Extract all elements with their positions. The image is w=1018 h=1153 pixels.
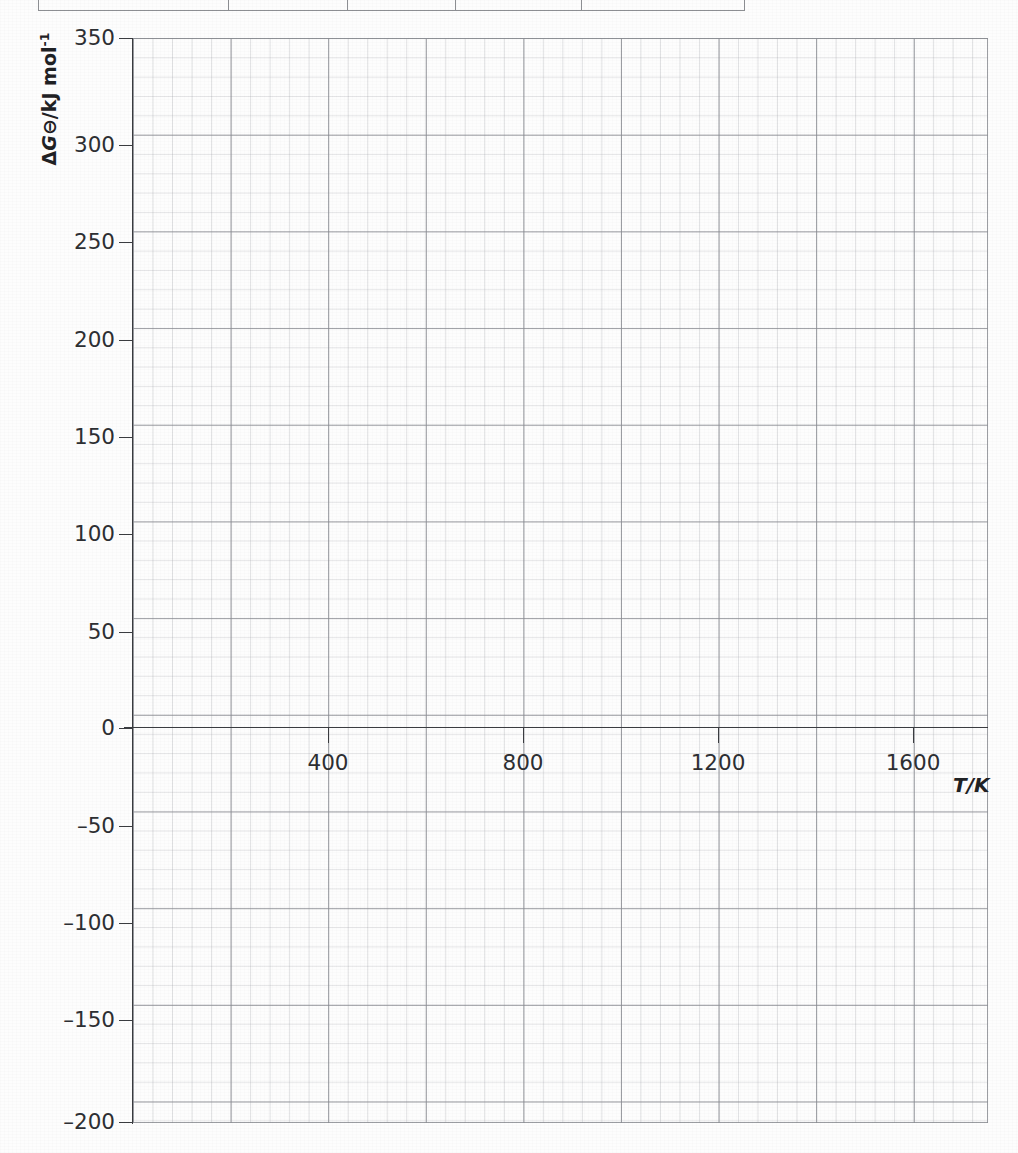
y-tick <box>119 1020 133 1021</box>
y-axis-line <box>132 38 133 1124</box>
y-tick <box>119 242 133 243</box>
plot-border-right <box>987 38 988 1123</box>
y-tick-label: 0 <box>45 717 115 739</box>
y-tick-label: 250 <box>45 231 115 253</box>
y-tick <box>119 728 133 729</box>
y-axis-title-exponent: -1 <box>37 33 52 47</box>
x-tick <box>523 728 524 743</box>
x-tick-label: 1200 <box>673 752 763 774</box>
major-gridlines <box>133 38 988 1123</box>
y-tick <box>119 340 133 341</box>
y-tick-label: 100 <box>45 523 115 545</box>
y-axis-title: ΔG⊖/kJ mol-1 <box>38 24 60 174</box>
plot-grid-area <box>133 38 988 1123</box>
x-axis-zero-line <box>124 727 988 728</box>
y-tick-label: 50 <box>45 621 115 643</box>
table-divider <box>347 0 348 10</box>
y-tick-label: –150 <box>45 1009 115 1031</box>
x-tick-label: 400 <box>283 752 373 774</box>
y-tick <box>119 632 133 633</box>
y-tick-label: 200 <box>45 329 115 351</box>
y-tick <box>119 38 133 39</box>
y-tick <box>119 826 133 827</box>
x-tick <box>328 728 329 743</box>
y-tick-label: –50 <box>45 815 115 837</box>
x-tick <box>718 728 719 743</box>
y-tick <box>119 534 133 535</box>
cropped-data-table <box>38 0 745 11</box>
x-tick-label: 1600 <box>868 752 958 774</box>
x-axis-title: T/K <box>953 773 989 797</box>
y-tick-label: –200 <box>45 1111 115 1133</box>
x-tick-label: 800 <box>478 752 568 774</box>
table-divider <box>38 0 39 10</box>
y-tick <box>119 1122 133 1123</box>
table-divider <box>455 0 456 10</box>
y-tick <box>119 145 133 146</box>
y-axis-title-delta: Δ <box>38 151 60 166</box>
y-tick-label: 150 <box>45 426 115 448</box>
plot-border-bottom <box>133 1122 988 1123</box>
table-divider <box>744 0 745 10</box>
table-divider <box>581 0 582 10</box>
y-axis-title-units: /kJ mol <box>38 47 60 120</box>
y-tick <box>119 923 133 924</box>
y-axis-title-standard-state: ⊖ <box>38 119 60 135</box>
y-tick <box>119 437 133 438</box>
x-tick <box>913 728 914 743</box>
y-tick-label: –100 <box>45 912 115 934</box>
plot-border-top <box>133 38 988 39</box>
y-axis-title-symbol: G <box>38 135 60 151</box>
table-divider <box>228 0 229 10</box>
